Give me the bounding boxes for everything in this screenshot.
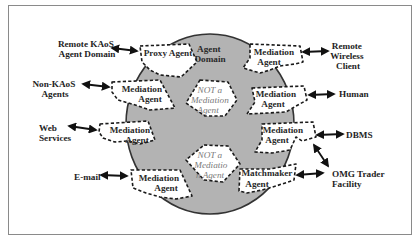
external-web-services: Web Services — [39, 123, 72, 143]
agent-domain-label: Agent Domain — [194, 44, 225, 64]
arrow-email-mediation — [101, 175, 127, 176]
arrow-wireless-mediation — [303, 51, 328, 52]
svg-text:Proxy Agent: Proxy Agent — [144, 48, 194, 58]
arrow-dbms-mediation — [317, 134, 343, 135]
mediation-agent-human: Mediation Agent — [247, 86, 307, 114]
external-remote-kaos: Remote KAoS Agent Domain — [58, 39, 116, 59]
arrow-remote-kaos-proxy — [112, 48, 137, 51]
external-email: E-mail — [74, 172, 101, 182]
arrow-omg-mediation — [314, 145, 328, 166]
mediation-agent-web: Mediation Agent — [99, 121, 155, 145]
arrow-web-mediation — [69, 126, 96, 130]
external-remote-wireless: Remote Wireless Client — [330, 41, 366, 71]
arrow-human-mediation — [309, 94, 334, 95]
arrow-omg-matchmaker — [297, 173, 323, 175]
matchmaker-agent: Matchmaker Agent — [239, 164, 296, 193]
mediation-agent-dbms: Mediation Agent — [255, 122, 316, 153]
external-dbms: DBMS — [346, 130, 373, 140]
agent-domain-diagram: Agent Domain Proxy Agent Mediation Agent… — [0, 0, 419, 246]
external-omg-trader: OMG Trader Facility — [332, 169, 387, 189]
mediation-agent-wireless: Mediation Agent — [243, 44, 303, 73]
external-non-kaos: Non-KAoS Agents — [32, 79, 77, 99]
arrow-nonkaos-mediation — [83, 84, 109, 87]
mediation-agent-email: Mediation Agent — [131, 170, 192, 199]
external-human: Human — [339, 89, 369, 99]
